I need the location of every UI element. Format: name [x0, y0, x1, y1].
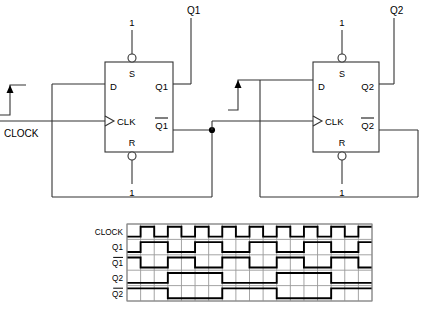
- ff2-pin-s-label: S: [339, 69, 345, 79]
- diagram-canvas: 1 S 1 R D CLK Q1 Q1 1 S 1 R D CLK Q2 Q2: [0, 0, 425, 316]
- clock-input-label: CLOCK: [4, 128, 39, 139]
- ff2-pin-r-label: R: [339, 138, 346, 148]
- ff1-set-bubble: [128, 54, 136, 62]
- timing-row-label-3: Q2: [112, 274, 123, 283]
- timing-row-label-4: Q2: [112, 290, 123, 299]
- timing-row-labels: CLOCKQ1Q1Q2Q2: [95, 228, 124, 299]
- flipflop-1: 1 S 1 R D CLK Q1 Q1: [105, 17, 173, 198]
- clock-edge-step-2: [228, 80, 260, 110]
- ff1-pin-q-label: Q1: [155, 81, 168, 92]
- ff2-output-label: Q2: [390, 5, 404, 16]
- flipflop-2: 1 S 1 R D CLK Q2 Q2: [313, 17, 379, 198]
- ff2-set-value: 1: [339, 17, 344, 28]
- clock-edge-step-1: [0, 85, 26, 115]
- ff2-pin-clk-label: CLK: [325, 116, 344, 127]
- timing-waveforms: [127, 227, 372, 298]
- ff1-reset-bubble: [128, 152, 136, 160]
- timing-wave-q1: [127, 242, 372, 252]
- ff1-output-label: Q1: [187, 5, 201, 16]
- ff2-pin-q-label: Q2: [361, 81, 374, 92]
- ff2-set-bubble: [338, 54, 346, 62]
- ff2-reset-bubble: [338, 152, 346, 160]
- timing-row-label-0: CLOCK: [95, 228, 124, 237]
- rising-edge-arrow-1-icon: [7, 85, 14, 93]
- ff1-pin-clk-label: CLK: [117, 116, 136, 127]
- timing-row-label-2: Q1: [112, 259, 123, 268]
- ff1-body: [105, 62, 173, 152]
- timing-wave-clock: [127, 227, 372, 237]
- timing-row-label-1: Q1: [112, 243, 123, 252]
- ff2-pin-d-label: D: [318, 81, 325, 92]
- timing-wave-q1bar: [127, 258, 372, 268]
- ff2-reset-value: 1: [339, 187, 344, 198]
- ff1-pin-d-label: D: [110, 81, 117, 92]
- circuit-and-timing-svg: 1 S 1 R D CLK Q1 Q1 1 S 1 R D CLK Q2 Q2: [0, 0, 425, 316]
- ff1-pin-qbar-label: Q1: [155, 120, 168, 131]
- timing-diagram: CLOCKQ1Q1Q2Q2: [95, 224, 372, 301]
- ff2-pin-qbar-label: Q2: [361, 120, 374, 131]
- rising-edge-arrow-2-icon: [235, 80, 242, 88]
- ff1-set-value: 1: [129, 17, 134, 28]
- ff1-pin-r-label: R: [129, 138, 136, 148]
- ff1-reset-value: 1: [129, 187, 134, 198]
- ff1-pin-s-label: S: [129, 69, 135, 79]
- ff2-body: [313, 62, 379, 152]
